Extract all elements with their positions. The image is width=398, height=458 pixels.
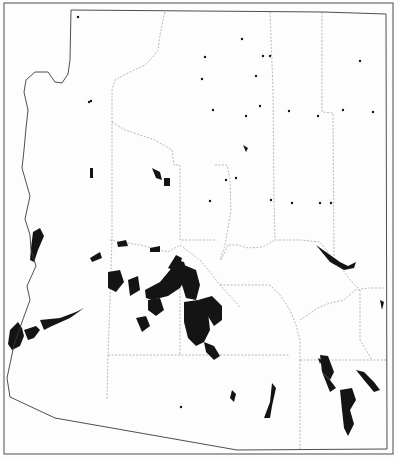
shaded-patch xyxy=(108,270,124,292)
arizona-county-map xyxy=(0,0,398,458)
shaded-speck xyxy=(342,109,344,111)
shaded-speck xyxy=(359,60,361,62)
shaded-speck xyxy=(245,115,247,117)
shaded-speck xyxy=(204,56,206,58)
county-line xyxy=(112,122,215,240)
shaded-speck xyxy=(317,115,319,117)
shaded-patch xyxy=(182,265,200,300)
shaded-patch xyxy=(380,300,384,310)
shaded-patch xyxy=(90,168,93,178)
shaded-speck xyxy=(235,177,237,179)
county-line xyxy=(322,12,334,260)
shaded-speck xyxy=(270,199,272,201)
shaded-patch xyxy=(136,316,150,332)
county-line xyxy=(107,12,165,400)
county-line xyxy=(300,288,384,320)
county-line xyxy=(215,165,231,260)
shaded-speck xyxy=(319,202,321,204)
shaded-specks xyxy=(77,16,374,408)
shaded-speck xyxy=(225,179,227,181)
shaded-patch xyxy=(90,252,102,262)
shaded-speck xyxy=(180,406,182,408)
shaded-patch xyxy=(148,298,164,316)
shaded-speck xyxy=(288,110,290,112)
shaded-speck xyxy=(255,75,257,77)
shaded-patch xyxy=(8,322,24,350)
county-boundaries xyxy=(107,12,386,450)
shaded-patch xyxy=(164,178,170,186)
shaded-speck xyxy=(330,202,332,204)
shaded-patch xyxy=(128,276,140,296)
shaded-patch xyxy=(340,388,356,436)
shaded-speck xyxy=(259,105,261,107)
shaded-patch xyxy=(230,390,236,402)
shaded-patch xyxy=(40,308,84,330)
shaded-patch xyxy=(150,246,160,252)
shaded-speck xyxy=(262,55,264,57)
shaded-speck xyxy=(269,55,271,57)
shaded-areas xyxy=(8,145,384,436)
shaded-speck xyxy=(241,38,243,40)
map-figure xyxy=(0,0,398,458)
shaded-patch xyxy=(320,355,334,380)
shaded-speck xyxy=(212,109,214,111)
shaded-patch xyxy=(316,245,356,270)
county-line xyxy=(221,240,334,260)
shaded-patch xyxy=(264,383,276,418)
shaded-patch xyxy=(204,342,220,360)
county-line xyxy=(220,285,300,360)
shaded-speck xyxy=(372,111,374,113)
shaded-patch xyxy=(30,228,44,262)
shaded-speck xyxy=(201,78,203,80)
shaded-patch xyxy=(243,145,248,152)
shaded-patch xyxy=(117,240,128,247)
shaded-speck xyxy=(291,202,293,204)
shaded-patch xyxy=(24,326,40,340)
shaded-speck xyxy=(88,101,90,103)
shaded-speck xyxy=(209,200,211,202)
shaded-speck xyxy=(77,16,79,18)
shaded-patch xyxy=(356,370,380,392)
shaded-patch xyxy=(145,260,188,300)
county-line xyxy=(360,290,372,360)
shaded-patch xyxy=(152,168,162,180)
county-line xyxy=(270,12,275,240)
